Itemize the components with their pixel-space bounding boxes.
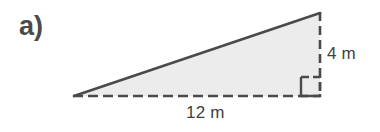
base-label: 12 m — [186, 104, 225, 121]
height-label: 4 m — [327, 45, 356, 62]
geometry-figure: a) 4 m 12 m — [0, 0, 380, 132]
part-label: a) — [19, 13, 43, 40]
